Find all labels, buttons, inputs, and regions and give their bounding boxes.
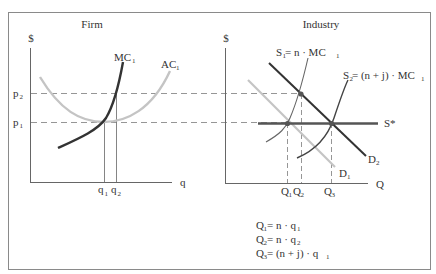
- s-star-label: S*: [384, 117, 396, 129]
- svg-text:1: 1: [132, 57, 136, 65]
- svg-text:1: 1: [20, 122, 24, 130]
- svg-text:p: p: [13, 116, 19, 128]
- svg-text:1: 1: [297, 225, 301, 233]
- equilibrium-point-1: [285, 121, 290, 126]
- s2-curve: [297, 80, 348, 158]
- equation-Q3: Q 3 = (n + j) · q 1: [256, 247, 330, 261]
- svg-text:2: 2: [297, 239, 301, 247]
- industry-x-axis-label: Q: [376, 178, 384, 190]
- s2-label: S 2 = (n + j) · MC 1: [343, 69, 425, 83]
- svg-text:D: D: [339, 167, 347, 179]
- Q1-label: Q 1: [281, 185, 293, 199]
- ac-curve: [40, 71, 170, 122]
- svg-text:1: 1: [289, 191, 293, 199]
- svg-text:2: 2: [301, 191, 305, 199]
- q1-label: q 1: [98, 183, 109, 198]
- svg-text:1: 1: [326, 253, 330, 261]
- svg-text:1: 1: [176, 64, 180, 72]
- svg-text:= n · q: = n · q: [267, 233, 297, 245]
- Q3-label: Q 3: [324, 185, 336, 199]
- svg-text:2: 2: [376, 159, 380, 167]
- svg-text:q: q: [111, 183, 117, 195]
- p2-label: p 2: [13, 87, 24, 101]
- firm-panel: Firm $ q p 2 p 1 MC 1 AC 1: [13, 18, 300, 198]
- s1-label: S 1 = n · MC 1: [276, 46, 340, 60]
- svg-text:S: S: [343, 69, 349, 81]
- svg-text:3: 3: [332, 191, 336, 199]
- mc-curve: [58, 62, 123, 148]
- svg-text:q: q: [98, 183, 104, 195]
- svg-text:= n · q: = n · q: [267, 219, 297, 231]
- svg-text:= n · MC: = n · MC: [285, 46, 326, 58]
- svg-text:S: S: [276, 46, 282, 58]
- svg-text:2: 2: [20, 93, 24, 101]
- equation-Q2: Q 2 = n · q 2: [256, 233, 301, 247]
- svg-text:AC: AC: [161, 58, 176, 70]
- industry-title: Industry: [303, 18, 340, 30]
- industry-panel: Industry $ Q S 1 = n · MC 1: [223, 18, 425, 261]
- firm-title: Firm: [81, 18, 103, 30]
- svg-text:1: 1: [336, 52, 340, 60]
- Q2-label: Q 2: [293, 185, 305, 199]
- q2-label: q 2: [111, 183, 122, 198]
- d1-label: D 1: [339, 167, 351, 181]
- industry-y-axis-label: $: [223, 32, 229, 44]
- svg-text:= (n + j) · MC: = (n + j) · MC: [352, 69, 415, 82]
- svg-text:= (n + j) · q: = (n + j) · q: [267, 247, 319, 260]
- svg-text:MC: MC: [114, 51, 131, 63]
- equation-Q1: Q 1 = n · q 1: [256, 219, 301, 233]
- equilibrium-point-3: [329, 121, 334, 126]
- svg-text:1: 1: [421, 75, 425, 83]
- equilibrium-point-2: [298, 91, 303, 96]
- p1-label: p 1: [13, 116, 24, 130]
- firm-y-axis-label: $: [28, 32, 34, 44]
- svg-text:1: 1: [105, 190, 109, 198]
- svg-text:2: 2: [118, 190, 122, 198]
- ac-label: AC 1: [161, 58, 180, 72]
- firm-x-axis-label: q: [180, 176, 186, 188]
- svg-text:D: D: [368, 153, 376, 165]
- diagram-figure: Firm $ q p 2 p 1 MC 1 AC 1: [0, 0, 436, 274]
- svg-text:p: p: [13, 87, 19, 99]
- mc-label: MC 1: [114, 51, 136, 65]
- svg-text:1: 1: [347, 173, 351, 181]
- d2-label: D 2: [368, 153, 380, 167]
